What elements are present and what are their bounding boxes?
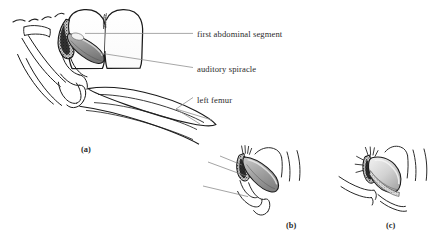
panel-label-b: (b) — [286, 222, 296, 230]
panel-a-drawing — [13, 10, 216, 145]
panel-label-c: (c) — [386, 222, 395, 230]
panel-label-a: (a) — [81, 146, 91, 154]
panel-c-drawing — [339, 146, 427, 211]
left-femur-shape — [79, 87, 216, 144]
panel-b-flap — [243, 157, 279, 192]
panel-b-drawing — [203, 146, 300, 215]
thorax-fragment — [24, 26, 51, 37]
annotation-label-left-femur: left femur — [197, 96, 232, 105]
panel-b-bristles — [242, 146, 252, 155]
annotation-label-auditory-spiracle: auditory spiracle — [197, 65, 256, 74]
figure-root: first abdominal segment auditory spiracl… — [0, 0, 445, 244]
annotation-label-first-abdominal-segment: first abdominal segment — [197, 30, 282, 39]
dorsal-dashed-contour — [13, 13, 64, 22]
second-abdominal-segment-shape — [105, 10, 143, 69]
